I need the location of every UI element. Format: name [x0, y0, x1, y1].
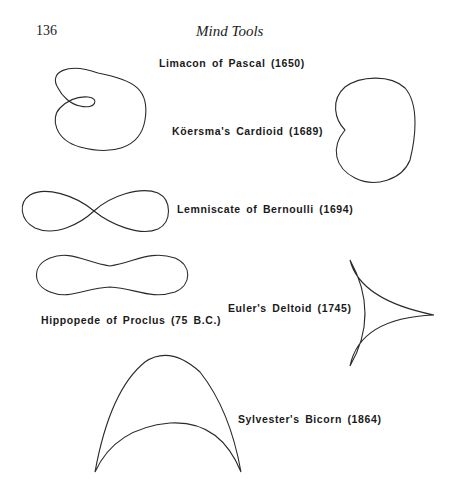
label-hippopede: Hippopede of Proclus (75 B.C.) [41, 314, 221, 326]
label-limacon: Limacon of Pascal (1650) [159, 57, 305, 69]
lemniscate-curve [22, 191, 168, 232]
label-lemniscate: Lemniscate of Bernoulli (1694) [177, 203, 353, 215]
deltoid-curve [350, 260, 434, 366]
limacon-curve [55, 68, 146, 150]
label-cardioid: Köersma's Cardioid (1689) [172, 125, 323, 137]
hippopede-curve [37, 255, 188, 294]
label-deltoid: Euler's Deltoid (1745) [228, 302, 352, 314]
bicorn-curve [95, 355, 241, 472]
curves-figure [0, 0, 459, 494]
cardioid-curve [336, 78, 415, 182]
label-bicorn: Sylvester's Bicorn (1864) [238, 413, 381, 425]
